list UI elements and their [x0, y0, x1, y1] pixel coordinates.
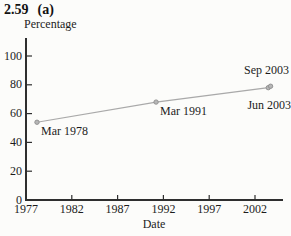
data-point-label: Sep 2003 — [244, 64, 289, 77]
x-axis-title: Date — [143, 217, 166, 232]
x-tick-label: 1997 — [197, 203, 221, 216]
y-tick-label: 20 — [0, 165, 22, 178]
x-tick-label: 2002 — [243, 203, 267, 216]
data-point-label: Mar 1991 — [160, 105, 207, 118]
x-tick-label: 1977 — [14, 203, 38, 216]
x-tick-label: 1992 — [151, 203, 175, 216]
y-tick-label: 40 — [0, 136, 22, 149]
figure-container: 2.59(a) Percentage 020406080100197719821… — [0, 0, 291, 236]
x-tick-label: 1987 — [106, 203, 130, 216]
y-tick-label: 60 — [0, 107, 22, 120]
data-point-label: Jun 2003 — [247, 99, 291, 112]
x-tick-label: 1982 — [60, 203, 84, 216]
axis-labels-layer: 020406080100197719821987199219972002Mar … — [0, 0, 291, 236]
data-point-label: Mar 1978 — [41, 125, 88, 138]
y-tick-label: 100 — [0, 50, 22, 63]
y-tick-label: 80 — [0, 78, 22, 91]
